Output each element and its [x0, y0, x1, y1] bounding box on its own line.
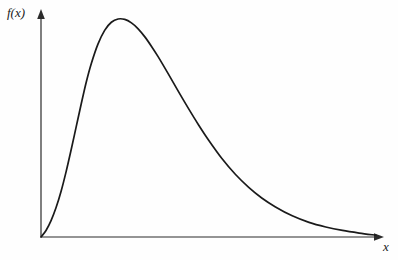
- x-axis-label: x: [383, 240, 389, 253]
- density-curve: [41, 19, 376, 237]
- plot-area: [0, 0, 398, 260]
- figure-canvas: f(x) x: [0, 0, 398, 260]
- axis-group: [37, 9, 384, 241]
- y-axis-arrowhead: [37, 9, 45, 19]
- y-axis-label: f(x): [7, 6, 25, 19]
